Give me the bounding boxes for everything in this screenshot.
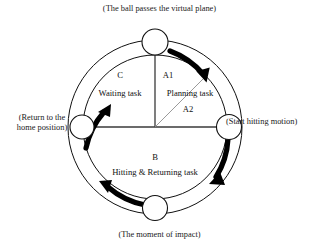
sector-b-code: B [130, 152, 180, 163]
sector-a1-name: Planning task [152, 88, 228, 99]
sector-a1-code: A1 [148, 70, 188, 81]
label-node-left: (Return to the home position) [2, 113, 82, 133]
label-node-left-line1: (Return to the [19, 113, 66, 122]
label-node-right: (Start hitting motion) [226, 117, 319, 127]
sector-c-name: Waiting task [84, 88, 156, 99]
label-node-left-line2: home position) [17, 123, 67, 132]
node-bottom-circle[interactable] [143, 196, 168, 221]
sector-a2-code: A2 [168, 104, 208, 115]
diagram-canvas: (The ball passes the virtual plane) (Ret… [0, 0, 319, 250]
node-top-circle[interactable] [142, 29, 168, 55]
sector-c-code: C [90, 70, 150, 81]
sector-b-name: Hitting & Returning task [85, 167, 225, 178]
label-node-top: (The ball passes the virtual plane) [0, 4, 319, 14]
label-node-bottom: (The moment of impact) [0, 230, 319, 240]
